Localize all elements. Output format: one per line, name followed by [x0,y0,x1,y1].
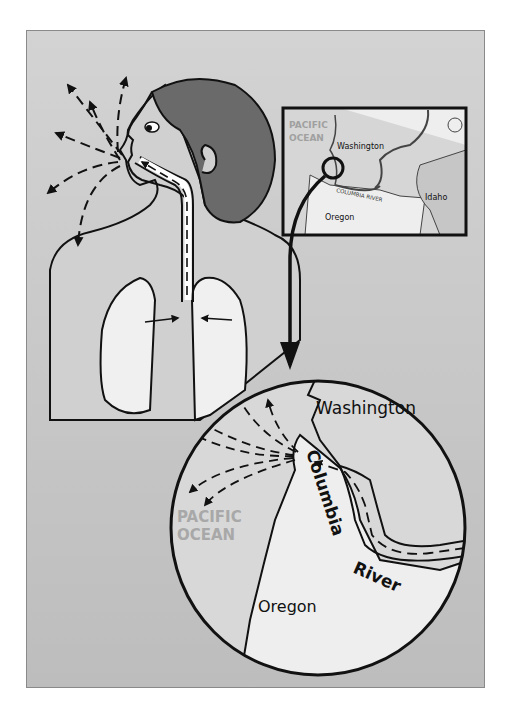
zoom-washington-label: Washington [316,398,416,418]
diagram-canvas: PACIFIC OCEAN Washington COLUMBIA RIVER … [0,0,515,713]
right-lung [192,278,247,420]
inset-oregon-label: Oregon [325,213,354,222]
zoom-ocean-label-2: OCEAN [177,526,235,544]
zoom-map: Washington PACIFIC OCEAN Oregon Columbia… [170,372,470,700]
zoom-ocean-label-1: PACIFIC [177,508,242,526]
inset-ocean-label-1: PACIFIC [289,120,328,130]
zoom-oregon-label: Oregon [258,597,317,616]
breath-arrows [48,78,126,245]
person-figure [50,79,300,420]
inset-washington-label: Washington [337,142,384,151]
inset-map: PACIFIC OCEAN Washington COLUMBIA RIVER … [283,108,466,235]
inset-idaho-label: Idaho [425,193,447,202]
inset-ocean-label-2: OCEAN [289,133,324,143]
